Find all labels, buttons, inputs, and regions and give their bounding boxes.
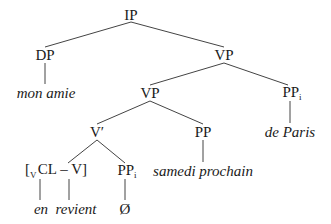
node-ip: IP: [124, 8, 137, 23]
node-vp-top: VP: [214, 48, 233, 63]
leaf-de-paris: de Paris: [265, 125, 315, 140]
edge-vbar-ppi: [97, 140, 125, 163]
edge-vp-pp: [150, 101, 203, 124]
node-pp: PP: [195, 125, 212, 140]
category-subscript: V: [30, 170, 37, 180]
node-v-bar: V′: [90, 125, 104, 140]
index-subscript: i: [299, 92, 302, 102]
node-label: PP: [117, 162, 134, 178]
edge-ip-vp: [131, 22, 224, 47]
index-subscript: i: [134, 170, 137, 180]
node-cl-v-complex: [V CL – V]: [25, 162, 87, 180]
leaf-revient: revient: [55, 202, 96, 217]
node-vp-mid: VP: [140, 86, 159, 101]
edge-vp-ppi: [224, 63, 288, 85]
edge-vp-vbar: [97, 101, 150, 124]
edge-vbar-clv: [68, 140, 97, 163]
cl-v-body: CL – V]: [38, 161, 87, 177]
node-pp-i-right: PPi: [282, 85, 301, 102]
node-label: PP: [282, 84, 299, 100]
node-pp-i-low: PPi: [117, 163, 136, 180]
node-dp: DP: [35, 48, 54, 63]
edge-vp-vp: [150, 63, 224, 85]
tree-edges: [0, 0, 331, 224]
leaf-empty-category: Ø: [120, 202, 131, 217]
leaf-en: en: [34, 202, 48, 217]
leaf-samedi-prochain: samedi prochain: [153, 164, 253, 179]
leaf-mon-amie: mon amie: [17, 86, 76, 101]
edge-ip-dp: [45, 22, 131, 47]
